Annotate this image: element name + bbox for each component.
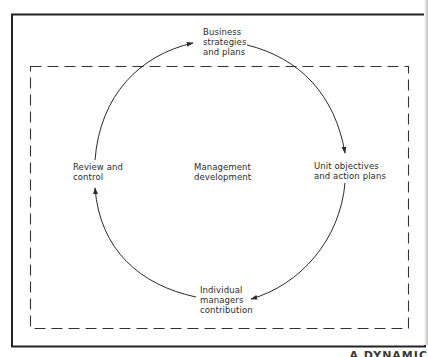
node-business-strategies: Business strategies and plans — [203, 27, 246, 57]
arc-unit-to-individual — [251, 183, 345, 299]
center-label-management-development: Management development — [194, 162, 251, 182]
node-review-control: Review and control — [73, 162, 123, 182]
arc-individual-to-review — [95, 188, 196, 297]
page-edge-shadow — [424, 0, 428, 345]
arc-business-to-unit — [247, 45, 345, 153]
figure-caption-fragment: A DYNAMIC — [170, 349, 428, 357]
node-individual-managers: Individual managers contribution — [200, 285, 253, 315]
arc-review-to-business — [95, 43, 193, 160]
diagram-canvas: Business strategies and plans Unit objec… — [0, 0, 428, 357]
node-unit-objectives: Unit objectives and action plans — [314, 161, 386, 181]
